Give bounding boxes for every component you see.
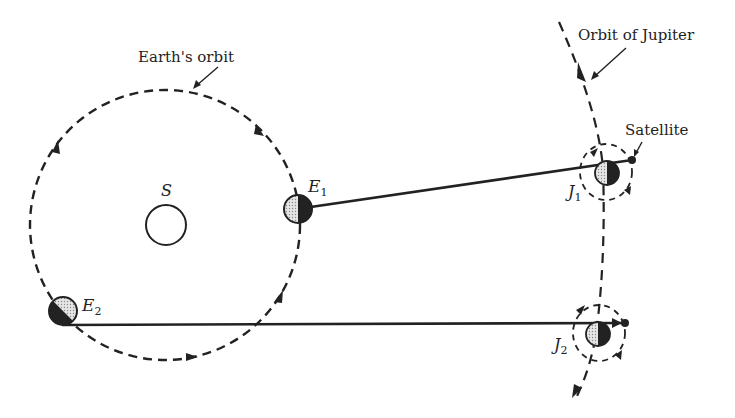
- orbit-arrow-icon: [615, 350, 622, 360]
- orbit-arrow-icon: [274, 290, 283, 303]
- orbit-arrow-icon: [577, 62, 586, 82]
- satellite-icon: [628, 156, 636, 164]
- e1-label: E1: [307, 176, 327, 199]
- pointer-arrow-icon: [591, 71, 599, 80]
- earth-e2: [49, 297, 77, 325]
- orbit-arrow-icon: [186, 353, 198, 361]
- jupiter-j2: [573, 305, 629, 361]
- jupiter-j1: [580, 144, 636, 200]
- j1-label: J1: [565, 182, 581, 204]
- sun-label: S: [161, 181, 172, 200]
- sight-arrow-icon: [612, 318, 622, 328]
- earth-orbit-label: Earth's orbit: [138, 48, 234, 66]
- earth-orbit-pointer: [196, 67, 218, 86]
- jupiter-orbit-pointer: [595, 48, 626, 76]
- satellite-label: Satellite: [625, 121, 689, 139]
- e2-label: E2: [81, 295, 101, 318]
- sun: [146, 205, 186, 245]
- j2-label: J2: [551, 335, 567, 357]
- satellite-icon: [621, 319, 629, 327]
- line-of-sight-e2-j2: [62, 323, 625, 325]
- diagram-canvas: Earth's orbit S E1 E2 Orbit of Jupiter S…: [0, 0, 735, 418]
- jupiter-orbit-label: Orbit of Jupiter: [578, 26, 695, 44]
- earth-e1: [284, 195, 312, 223]
- pointer-arrow-icon: [193, 80, 201, 89]
- line-of-sight-e1-j1: [297, 160, 632, 209]
